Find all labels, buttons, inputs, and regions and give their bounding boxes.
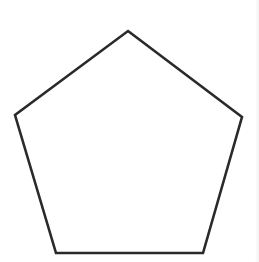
pentagon-shape bbox=[15, 31, 242, 253]
drawing-canvas bbox=[0, 0, 259, 262]
pentagon-figure bbox=[0, 0, 259, 262]
